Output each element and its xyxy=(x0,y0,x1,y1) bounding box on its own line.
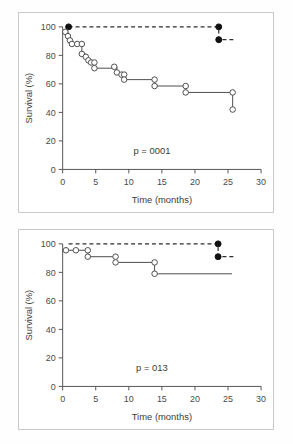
event-marker-open xyxy=(183,83,189,89)
panel-bottom-chart: 020406080100051015202530Time (months)Sur… xyxy=(18,229,274,430)
top-chart-plot: 020406080100051015202530Time (months)Sur… xyxy=(23,22,266,205)
series-line-lower-solid-group xyxy=(66,250,232,274)
event-marker-open xyxy=(152,77,158,83)
x-tick-label: 10 xyxy=(124,177,134,187)
y-tick-label: 100 xyxy=(41,22,56,32)
x-tick-label: 30 xyxy=(256,177,266,187)
survival-figure: 020406080100051015202530Time (months)Sur… xyxy=(0,0,293,444)
y-tick-label: 40 xyxy=(46,108,56,118)
event-marker-open xyxy=(92,60,98,66)
event-marker-open xyxy=(113,260,119,266)
event-marker-open xyxy=(152,271,158,277)
bottom-chart-svg: 020406080100051015202530Time (months)Sur… xyxy=(19,230,273,429)
event-marker-censored-filled xyxy=(216,24,222,30)
event-marker-open xyxy=(79,41,85,47)
event-marker-open xyxy=(69,41,75,47)
event-marker-open xyxy=(85,254,91,260)
x-tick-label: 20 xyxy=(190,394,200,404)
event-marker-open xyxy=(121,77,127,83)
event-marker-censored-filled xyxy=(215,241,221,247)
y-tick-label: 100 xyxy=(41,239,56,249)
x-tick-label: 25 xyxy=(223,177,233,187)
x-tick-label: 30 xyxy=(256,394,266,404)
y-tick-label: 80 xyxy=(46,268,56,278)
y-tick-label: 80 xyxy=(46,51,56,61)
event-marker-open xyxy=(152,83,158,89)
x-axis-title: Time (months) xyxy=(132,194,192,205)
x-axis-title: Time (months) xyxy=(132,411,192,422)
bottom-chart-plot: 020406080100051015202530Time (months)Sur… xyxy=(23,239,266,422)
series-line-upper-dashed-group xyxy=(69,27,236,40)
series-line-lower-solid-group xyxy=(65,32,232,110)
y-tick-label: 60 xyxy=(46,79,56,89)
event-marker-open xyxy=(230,90,236,96)
event-marker-censored-filled xyxy=(216,37,222,43)
p-value-annotation: p = 013 xyxy=(136,362,168,373)
y-axis-title: Survival (%) xyxy=(23,290,34,341)
event-marker-open xyxy=(111,64,117,70)
event-marker-open xyxy=(183,90,189,96)
event-marker-open xyxy=(230,107,236,113)
x-tick-label: 25 xyxy=(223,394,233,404)
y-tick-label: 40 xyxy=(46,325,56,335)
top-chart-svg: 020406080100051015202530Time (months)Sur… xyxy=(19,13,273,212)
y-tick-label: 0 xyxy=(51,165,56,175)
event-marker-open xyxy=(152,260,158,266)
x-tick-label: 5 xyxy=(93,177,98,187)
event-marker-censored-filled xyxy=(215,254,221,260)
x-tick-label: 0 xyxy=(60,394,65,404)
event-marker-open xyxy=(73,248,79,254)
y-tick-label: 60 xyxy=(46,296,56,306)
y-axis-title: Survival (%) xyxy=(23,73,34,124)
event-marker-open xyxy=(85,248,91,254)
event-marker-open xyxy=(113,254,119,260)
event-marker-open xyxy=(92,65,98,71)
series-line-upper-dashed-group xyxy=(69,244,236,257)
y-tick-label: 0 xyxy=(51,382,56,392)
x-tick-label: 20 xyxy=(190,177,200,187)
x-tick-label: 15 xyxy=(157,177,167,187)
p-value-annotation: p = 0001 xyxy=(133,145,170,156)
panel-top-chart: 020406080100051015202530Time (months)Sur… xyxy=(18,12,274,213)
y-tick-label: 20 xyxy=(46,353,56,363)
event-marker-open xyxy=(63,248,69,254)
x-tick-label: 10 xyxy=(124,394,134,404)
x-tick-label: 15 xyxy=(157,394,167,404)
y-tick-label: 20 xyxy=(46,136,56,146)
x-tick-label: 0 xyxy=(60,177,65,187)
x-tick-label: 5 xyxy=(93,394,98,404)
